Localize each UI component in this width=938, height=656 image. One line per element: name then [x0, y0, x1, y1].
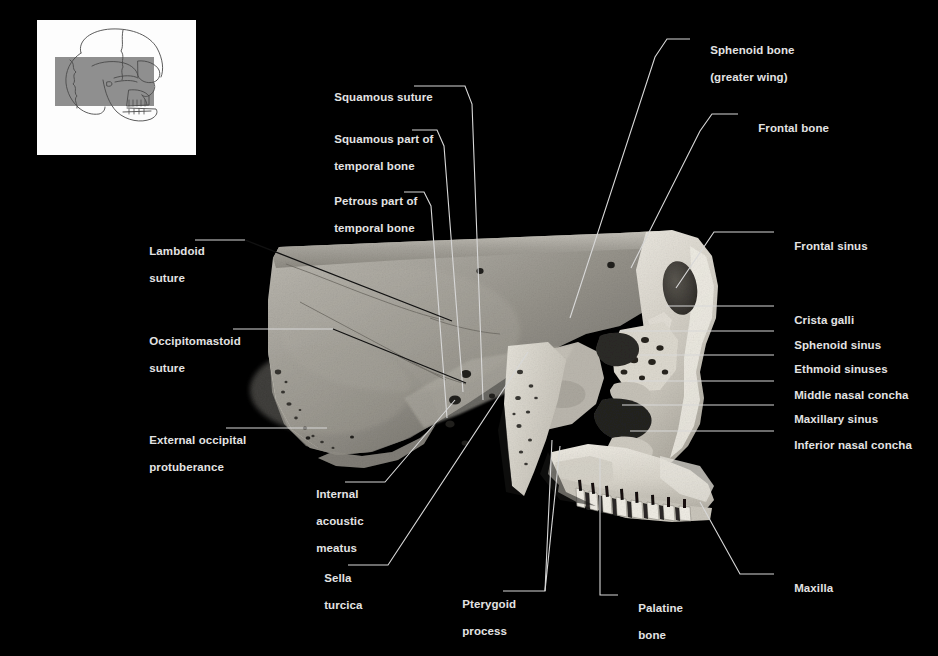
tooth-root-canals [578, 480, 686, 508]
label-palatine-bone: Palatine bone [625, 588, 683, 656]
cranium-group [250, 231, 663, 455]
leader-internal-acoustic-meatus [345, 400, 455, 482]
lambdoid-suture-line [286, 264, 444, 320]
label-occipitomastoid-suture: Occipitomastoid suture [136, 321, 241, 389]
petrous-ridge [404, 346, 574, 428]
label-maxilla: Maxilla [781, 568, 833, 609]
leader-sphenoid-bone-greater-wing [570, 39, 690, 318]
pterygoid-pores [512, 370, 537, 466]
sphenoid-body-group [514, 342, 604, 430]
label-external-occipital-protuberance: External occipital protuberance [136, 420, 246, 488]
label-petrous-part-of-temporal-bone: Petrous part of temporal bone [321, 181, 417, 249]
label-lambdoid-suture: Lambdoid suture [136, 231, 205, 299]
thumbnail-skull-drawing [37, 20, 196, 155]
sphenoid-body [514, 342, 604, 430]
pterygoid-plate-group [504, 342, 566, 496]
label-sphenoid-bone-greater-wing: Sphenoid bone (greater wing) [697, 30, 795, 98]
vault-foramina [306, 262, 615, 446]
ethmoid-region [612, 322, 678, 392]
occipitomastoid-suture-line [300, 302, 446, 380]
leader-sella-turcica [348, 352, 528, 565]
leader-frontal-sinus [676, 232, 774, 288]
nasal-dorsum-highlight [670, 246, 714, 458]
internal-surface-highlight [280, 268, 520, 392]
accessory-suture-b [398, 356, 466, 384]
label-pterygoid-process: Pterygoid process [449, 584, 516, 652]
diploe-band-left [258, 352, 352, 468]
label-inferior-nasal-concha: Inferior nasal concha [781, 425, 912, 466]
accessory-suture-a [430, 318, 500, 334]
leader-occipitomastoid-d [333, 329, 466, 383]
orientation-thumbnail [37, 20, 196, 155]
leader-frontal-bone [631, 114, 738, 268]
frontal-sinus-cavity [659, 259, 701, 318]
suture-lines [286, 264, 500, 384]
label-squamous-part-of-temporal-bone: Squamous part of temporal bone [321, 119, 434, 187]
maxilla-group [548, 444, 714, 522]
frontal-nasal-mass [626, 230, 718, 466]
leader-lambdoid-suture-d [245, 240, 452, 321]
middle-nasal-concha [610, 382, 651, 408]
ethmoid-air-cells [621, 337, 669, 380]
diploe-pores [275, 370, 335, 450]
facial-block-group [594, 230, 718, 466]
leader-palatine-bone [600, 458, 618, 595]
sella-turcica-floor [540, 381, 585, 408]
leader-pterygoid-process-b [545, 446, 560, 591]
label-sella-turcica: Sella turcica [311, 558, 363, 626]
diploe-edge-group [258, 352, 352, 468]
cranial-vault [268, 231, 663, 455]
anatomical-figure: Squamous suture Squamous part of tempora… [0, 0, 938, 656]
label-frontal-bone: Frontal bone [745, 108, 829, 149]
cerebellar-fossa-shade [250, 346, 410, 434]
crista-galli [648, 312, 672, 338]
label-internal-acoustic-meatus: Internal acoustic meatus [303, 474, 364, 569]
maxillary-sinus-cavity [594, 399, 652, 440]
interdental-shadows [585, 492, 680, 521]
alveolar-process [558, 478, 712, 522]
specimen-edge-shadows [498, 404, 596, 506]
maxillary-teeth [576, 480, 691, 521]
pterygoid-process-plate [504, 342, 566, 496]
zygomatic-wedge [660, 456, 714, 502]
external-occipital-protuberance-region [318, 424, 436, 468]
posterior-fossa [268, 318, 440, 455]
leader-pterygoid-process-a [503, 440, 552, 591]
label-frontal-sinus: Frontal sinus [781, 226, 868, 267]
label-squamous-suture: Squamous suture [321, 77, 433, 118]
maxilla-body [548, 444, 714, 518]
palatine-bone [552, 456, 614, 490]
sphenoid-sinus-cavity [596, 333, 639, 367]
inferior-nasal-concha [608, 436, 653, 464]
leader-maxilla [700, 502, 774, 574]
